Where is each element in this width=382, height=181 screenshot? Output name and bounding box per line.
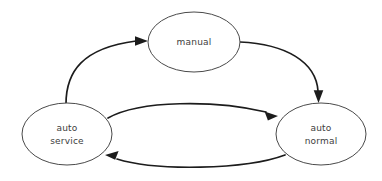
node-auto-service[interactable]: auto service xyxy=(22,103,112,165)
edge-auto-service-to-auto-normal xyxy=(108,104,278,121)
node-auto-normal-label-line1: auto xyxy=(310,123,331,133)
node-auto-service-label-line2: service xyxy=(50,136,84,146)
edge-auto-service-to-auto-normal-path xyxy=(108,104,266,118)
node-auto-service-label-line1: auto xyxy=(56,123,77,133)
edge-auto-service-to-manual xyxy=(66,36,148,104)
edge-auto-normal-to-auto-service-path xyxy=(117,155,285,167)
node-manual[interactable]: manual xyxy=(148,12,240,72)
state-diagram-canvas: manual auto service auto normal xyxy=(0,0,382,181)
node-auto-normal-shape[interactable] xyxy=(276,103,366,165)
node-manual-label: manual xyxy=(177,37,212,47)
node-auto-normal[interactable]: auto normal xyxy=(276,103,366,165)
edge-manual-to-auto-normal-path xyxy=(240,42,318,91)
state-diagram: manual auto service auto normal xyxy=(0,0,382,181)
edge-manual-to-auto-normal-arrowhead xyxy=(314,90,324,103)
edge-auto-service-to-manual-path xyxy=(66,41,136,104)
edge-auto-service-to-auto-normal-arrowhead xyxy=(265,112,278,121)
node-auto-normal-label-line2: normal xyxy=(305,136,338,146)
edge-auto-normal-to-auto-service xyxy=(105,151,285,167)
edge-manual-to-auto-normal xyxy=(240,42,323,103)
edge-auto-service-to-manual-arrowhead xyxy=(135,36,148,46)
node-auto-service-shape[interactable] xyxy=(22,103,112,165)
